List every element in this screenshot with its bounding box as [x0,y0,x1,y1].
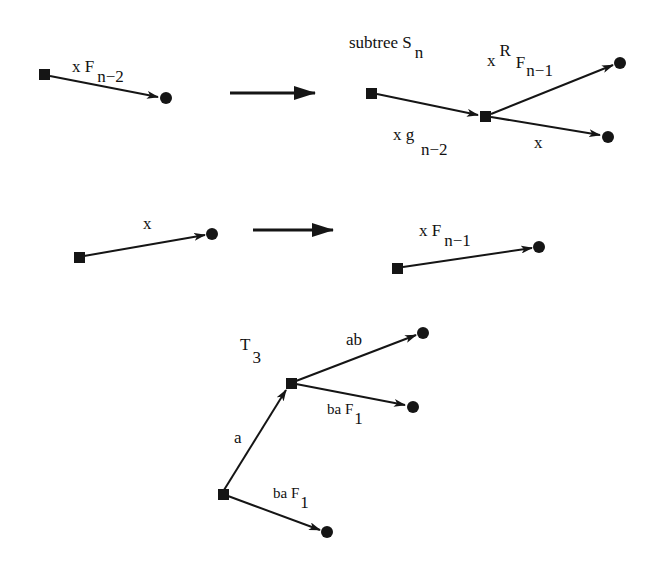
edge-label: x [143,214,152,233]
subtree-title: subtree Sn [349,33,424,62]
square-node-icon [74,252,85,263]
edge-down-label: x [534,133,543,152]
square-node-icon [39,69,50,80]
circle-node-icon [602,131,614,143]
circle-node-icon [160,92,172,104]
rule2-right: x Fn−1 [392,221,545,274]
square-node-icon [366,88,377,99]
rule1-left: x Fn−2 [39,57,172,104]
square-node-icon [480,111,491,122]
circle-node-icon [321,526,333,538]
circle-node-icon [407,401,419,413]
edge-a-label: a [234,428,242,447]
edge-label: x Fn−1 [419,221,471,250]
edge-up-label: xRFn−1 [487,41,553,80]
edge-in-sub: n−2 [421,140,448,159]
square-node-icon [218,489,229,500]
edge-ab-label: ab [346,330,362,349]
edge-xg-n-2 [377,94,478,115]
square-node-icon [286,378,297,389]
circle-node-icon [206,228,218,240]
circle-node-icon [614,57,626,69]
square-node-icon [392,263,403,274]
rule2-left: x [74,214,218,263]
rule1-right-subtree: subtree Sn x g n−2 xRFn−1 x [349,33,626,159]
circle-node-icon [417,327,429,339]
edge-x [491,117,600,135]
example-tree-T3: T3 a ab ba F1 ba F1 [218,327,429,538]
tree-title: T3 [240,335,261,367]
edge-in-label: x g [393,125,415,144]
circle-node-icon [533,241,545,253]
edge-baF1-upper-label: ba F1 [327,401,363,428]
edge-xF-n-1 [403,248,532,267]
edge-baF1-lower-label: ba F1 [273,485,309,512]
edge-x [84,235,205,256]
tree-diagram: x Fn−2 subtree Sn x g n−2 xRFn−1 x x x F… [0,0,659,566]
